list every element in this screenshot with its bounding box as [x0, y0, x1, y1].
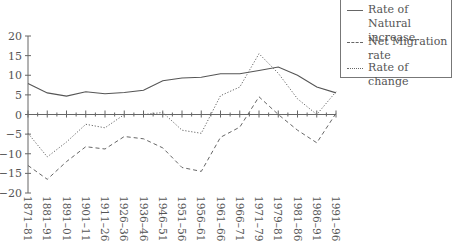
y-tick-label: 10 — [8, 69, 22, 82]
y-tick-label: 20 — [8, 30, 22, 43]
x-tick-label: 1901–11 — [80, 196, 92, 241]
x-tick-label: 1981–86 — [292, 196, 304, 242]
x-tick-label: 1966–71 — [234, 196, 246, 241]
dashed-line-swatch-icon — [347, 42, 363, 43]
x-tick-label: 1991–96 — [330, 196, 342, 242]
x-tick-label: 1891–01 — [61, 196, 73, 241]
x-tick-label: 1951–56 — [176, 196, 188, 242]
series-line-dashed — [28, 97, 336, 180]
legend-label: Net Migration rate — [368, 35, 452, 63]
y-tick-label: −20 — [0, 187, 22, 200]
x-tick-label: 1911–26 — [99, 196, 111, 242]
y-tick-label: −10 — [0, 148, 22, 161]
x-tick-label: 1979–81 — [272, 196, 284, 241]
legend-item-rate-of-change: Rate of change — [347, 61, 452, 89]
y-tick-label: −15 — [0, 167, 22, 180]
x-tick-label: 1881–91 — [41, 196, 53, 241]
series-line-dotted — [28, 54, 336, 157]
x-tick-label: 1961–66 — [215, 196, 227, 242]
y-tick-label: 5 — [15, 89, 22, 102]
x-tick-label: 1986–91 — [311, 196, 323, 241]
legend-label: Rate of change — [368, 61, 452, 89]
x-tick-label: 1936–46 — [138, 196, 150, 242]
y-tick-label: −5 — [6, 128, 22, 141]
dotted-line-swatch-icon — [347, 68, 363, 69]
x-tick-label: 1971–79 — [253, 196, 265, 241]
legend: Rate of Natural increase Net Migration r… — [340, 0, 452, 78]
x-tick-label: 1926–36 — [118, 196, 130, 242]
legend-item-net-migration: Net Migration rate — [347, 35, 452, 63]
x-tick-label: 1956–61 — [195, 196, 207, 241]
x-tick-label: 1871–81 — [22, 196, 34, 241]
series-line-solid — [28, 67, 336, 96]
y-tick-label: 0 — [15, 109, 22, 122]
solid-line-swatch-icon — [347, 10, 363, 11]
y-tick-label: 15 — [8, 50, 22, 63]
x-tick-label: 1946–51 — [157, 196, 169, 241]
